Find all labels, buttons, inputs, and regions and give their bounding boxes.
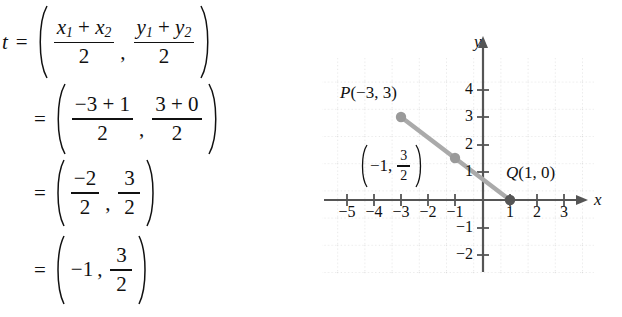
paren-close-4	[136, 234, 151, 306]
paren-open-1	[34, 4, 50, 80]
fraction-numerator: 3	[397, 148, 410, 165]
tuple-1: x1 + x2 2 , y1 + y2 2	[50, 15, 199, 70]
point-label-midpoint: −1, 3 2	[358, 143, 425, 189]
fraction-denominator: 2	[113, 271, 130, 297]
y-tick-label-2: 2	[453, 135, 473, 153]
tuple-comma: ,	[103, 191, 114, 220]
equation-row-substituted: = −3 + 1 2 , 3 + 0 2	[34, 82, 222, 156]
point-label-q-close: )	[549, 163, 555, 183]
equals-sign-4: =	[34, 258, 46, 283]
equation-block: t = x1 + x2 2 , y1 + y2 2	[0, 0, 310, 317]
figure-root: t = x1 + x2 2 , y1 + y2 2	[0, 0, 622, 317]
point-label-q-letter: Q	[506, 163, 518, 183]
x-tick-label--5: −5	[335, 203, 359, 221]
point-label-p-value: −3, 3	[356, 83, 391, 103]
point-label-midpoint-x: −1,	[369, 156, 393, 176]
y-axis-label: y	[474, 32, 482, 52]
tuple-2: −3 + 1 2 , 3 + 0 2	[68, 92, 206, 145]
point-label-p-letter: P	[340, 83, 350, 103]
fraction-numerator: −2	[71, 166, 99, 192]
y-tick-label-3: 3	[453, 107, 473, 125]
fraction-numerator: x1 + x2	[54, 15, 115, 42]
paren-open-2	[52, 82, 68, 156]
point-p	[396, 112, 406, 122]
x-tick-label-3: 3	[552, 203, 576, 221]
fraction-numerator: −3 + 1	[72, 92, 133, 118]
graph-svg	[310, 0, 622, 317]
fraction-y-substituted: 3 + 0 2	[148, 92, 205, 145]
y-tick-label-4: 4	[453, 80, 473, 98]
fraction-denominator: 2	[397, 167, 410, 184]
fraction-numerator: y1 + y2	[134, 15, 195, 42]
paren-close-1	[198, 4, 214, 80]
fraction-denominator: 2	[94, 120, 111, 146]
fraction-y-general: y1 + y2 2	[130, 15, 199, 70]
point-label-p: P ( −3, 3 )	[340, 83, 397, 103]
x-tick-label--2: −2	[416, 203, 440, 221]
tuple-comma: ,	[137, 117, 148, 146]
x-tick-label-1: 1	[498, 203, 522, 221]
paren-open-3	[52, 158, 67, 228]
fraction-numerator: 3 + 0	[152, 92, 201, 118]
fraction-y-final: 3 2	[106, 243, 136, 296]
x-tick-label--3: −3	[389, 203, 413, 221]
fraction-denominator: 2	[156, 43, 173, 69]
x-tick-label-2: 2	[525, 203, 549, 221]
fraction-x-substituted: −3 + 1 2	[68, 92, 137, 145]
fraction-denominator: 2	[121, 194, 138, 220]
paren-close-2	[206, 82, 222, 156]
fraction-numerator: 3	[121, 166, 138, 192]
point-label-q: Q ( 1, 0 )	[506, 163, 555, 183]
y-tick-label-1: 1	[453, 162, 473, 180]
y-tick-label--2: −2	[448, 245, 473, 263]
tuple-4: −1 , 3 2	[67, 243, 137, 296]
paren-open-4	[52, 234, 67, 306]
fraction-numerator: 3	[113, 243, 130, 269]
point-label-p-close: )	[391, 83, 397, 103]
x-tick-label--4: −4	[362, 203, 386, 221]
fraction-denominator: 2	[169, 120, 186, 146]
tuple-3: −2 2 , 3 2	[67, 166, 145, 219]
x-axis-label: x	[594, 190, 602, 210]
equation-row-general: t = x1 + x2 2 , y1 + y2 2	[2, 4, 214, 80]
fraction-midpoint-y: 3 2	[393, 148, 414, 183]
fraction-x-simplified: −2 2	[67, 166, 103, 219]
tuple-comma: ,	[95, 257, 106, 282]
y-tick-label--1: −1	[448, 218, 473, 236]
equals-sign-1: =	[16, 30, 28, 55]
fraction-denominator: 2	[76, 43, 93, 69]
equation-lead-fragment: t	[2, 30, 8, 55]
paren-close-midpoint	[414, 143, 425, 189]
equals-sign-3: =	[34, 181, 46, 206]
paren-close-3	[144, 158, 159, 228]
fraction-x-general: x1 + x2 2	[50, 15, 119, 70]
fraction-denominator: 2	[77, 194, 94, 220]
equals-sign-2: =	[34, 107, 46, 132]
tuple-comma: ,	[118, 40, 129, 69]
coordinate-plane-figure: y x −5 −4 −3 −2 −1 1 2 3 4 3 2 1 −1 −2 P…	[310, 0, 622, 317]
point-label-q-value: 1, 0	[524, 163, 550, 183]
equation-row-simplified: = −2 2 , 3 2	[34, 158, 159, 228]
fraction-y-simplified: 3 2	[114, 166, 144, 219]
final-x-value: −1	[67, 257, 95, 282]
equation-row-final: = −1 , 3 2	[34, 234, 151, 306]
paren-open-midpoint	[358, 143, 369, 189]
